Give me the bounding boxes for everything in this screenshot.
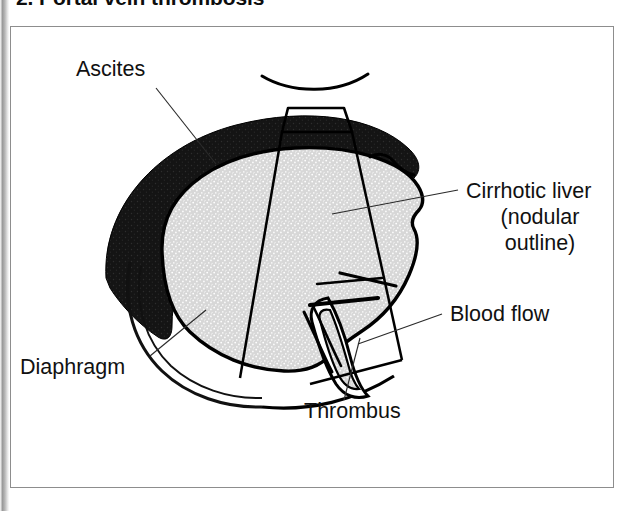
figure-title: 2. Portal vein thrombosis	[16, 0, 264, 10]
label-blood-flow: Blood flow	[450, 302, 550, 326]
page-edge-artifact	[0, 0, 9, 511]
label-cirrhotic-liver-line1: Cirrhotic liver	[466, 179, 591, 203]
skin-surface-arc	[262, 74, 368, 89]
portal-vein-thrombosis-illustration: Ascites Cirrhotic liver (nodular outline…	[10, 26, 614, 488]
label-thrombus: Thrombus	[304, 399, 401, 423]
label-ascites: Ascites	[76, 57, 145, 81]
figure-page: 2. Portal vein thrombosis	[0, 0, 637, 511]
label-cirrhotic-liver-line2: (nodular	[501, 205, 580, 229]
label-diaphragm: Diaphragm	[20, 355, 125, 379]
label-cirrhotic-liver-line3: outline)	[505, 231, 576, 255]
cirrhotic-liver-region	[162, 148, 423, 371]
